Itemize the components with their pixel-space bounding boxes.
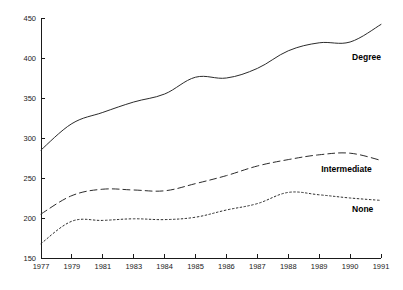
x-tick-label: 1986 — [218, 262, 235, 271]
x-tick-label: 1989 — [311, 262, 328, 271]
x-tick-label: 1990 — [342, 262, 359, 271]
series-line-degree — [41, 24, 381, 150]
x-tick-label: 1987 — [249, 262, 266, 271]
x-axis-ticks — [41, 254, 381, 258]
x-tick-label: 1983 — [125, 262, 142, 271]
y-tick-label: 250 — [23, 174, 36, 183]
x-tick-label: 1981 — [94, 262, 111, 271]
series-label-degree: Degree — [352, 52, 381, 62]
axis-lines — [41, 18, 381, 258]
x-tick-label: 1977 — [33, 262, 50, 271]
x-axis-tick-labels: 1977197919811983198419851986198719881989… — [33, 262, 390, 271]
y-axis-ticks — [41, 18, 45, 258]
y-tick-label: 450 — [23, 14, 36, 23]
data-series-group — [41, 24, 381, 243]
line-chart: 150200250300350400450 197719791981198319… — [0, 0, 403, 290]
x-tick-label: 1985 — [187, 262, 204, 271]
y-tick-label: 200 — [23, 214, 36, 223]
x-tick-label: 1984 — [156, 262, 173, 271]
series-inline-labels: DegreeIntermediateNone — [321, 52, 381, 214]
series-label-none: None — [352, 204, 374, 214]
x-tick-label: 1988 — [280, 262, 297, 271]
y-axis-tick-labels: 150200250300350400450 — [23, 14, 36, 263]
x-tick-label: 1991 — [373, 262, 390, 271]
y-tick-label: 350 — [23, 94, 36, 103]
series-line-intermediate — [41, 153, 381, 214]
axes-group — [41, 18, 381, 258]
chart-canvas: 150200250300350400450 197719791981198319… — [0, 0, 403, 290]
series-label-intermediate: Intermediate — [321, 164, 372, 174]
y-tick-label: 300 — [23, 134, 36, 143]
y-tick-label: 400 — [23, 54, 36, 63]
x-tick-label: 1979 — [64, 262, 81, 271]
series-line-none — [41, 192, 381, 244]
